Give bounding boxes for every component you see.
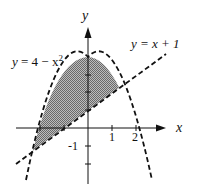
shaded-region [33, 57, 120, 151]
x-axis-label: x [175, 120, 183, 135]
region-diagram: y = 4 − x2 y = x + 1 x y 1 2 -1 [0, 0, 197, 194]
y-axis-arrow-icon [85, 27, 92, 38]
y-axis-label: y [80, 8, 89, 23]
curve1-label: y = 4 − x2 [10, 53, 63, 69]
tick-label-ym1: -1 [68, 139, 78, 153]
tick-label-x1: 1 [109, 130, 115, 144]
tick-label-x2: 2 [132, 130, 138, 144]
x-axis-arrow-icon [156, 125, 166, 132]
curve2-label: y = x + 1 [129, 36, 180, 51]
